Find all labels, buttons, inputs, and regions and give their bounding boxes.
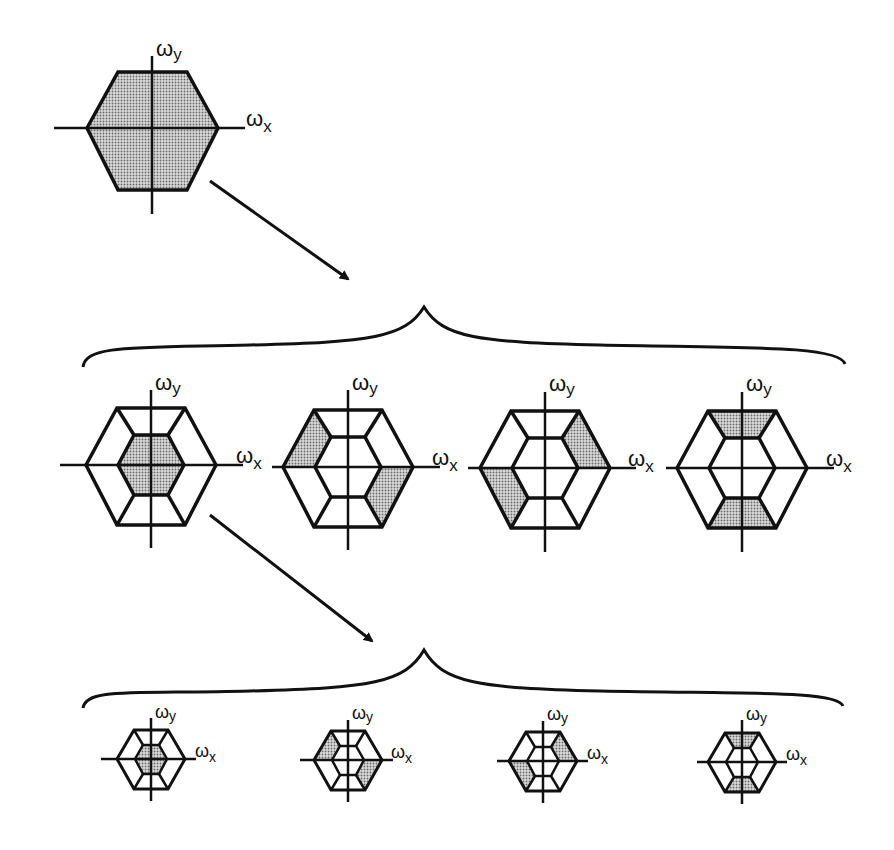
- input-spectrum-hexagon: ωy ωx: [54, 36, 272, 214]
- level-2-diagonal-band-hexagon-b: ωy ωx: [497, 704, 608, 803]
- decomposition-arrow-1: [210, 181, 348, 279]
- spoke: [526, 732, 535, 747]
- level-2-vertical-band-hexagon: ωy ωx: [697, 704, 807, 804]
- spoke: [551, 776, 560, 791]
- spoke: [117, 495, 134, 525]
- level-1-lowpass-hexagon: ωy ωx: [60, 370, 262, 548]
- spoke: [562, 498, 579, 528]
- upper-left-region-shaded: [283, 410, 331, 467]
- wx-label: ωx: [786, 744, 807, 768]
- wy-label: ωy: [746, 371, 772, 399]
- wx-label: ωx: [432, 445, 458, 475]
- level-1-diagonal-band-hexagon-b: ωy ωx: [468, 371, 654, 552]
- lower-left-region-shaded: [480, 468, 528, 528]
- wx-label: ωx: [195, 741, 216, 765]
- level-1-vertical-band-hexagon: ωy ωx: [666, 371, 852, 552]
- wy-label: ωy: [352, 703, 373, 725]
- spoke: [168, 495, 185, 525]
- upper-right-region-shaded: [562, 411, 610, 468]
- spoke: [365, 410, 382, 437]
- wy-label: ωy: [352, 370, 378, 398]
- wx-label: ωx: [826, 446, 852, 476]
- spoke: [356, 731, 365, 746]
- spoke: [159, 730, 168, 745]
- wx-label: ωx: [391, 742, 412, 766]
- spoke: [314, 497, 331, 527]
- spoke: [159, 774, 168, 789]
- spoke: [168, 408, 185, 435]
- wy-label: ωy: [155, 702, 176, 724]
- wx-label: ωx: [628, 446, 654, 476]
- level-1-brace: [83, 307, 845, 367]
- spoke: [331, 775, 340, 790]
- wy-label: ωy: [549, 371, 575, 399]
- wy-label: ωy: [155, 370, 181, 398]
- wx-label: ωx: [236, 443, 262, 473]
- wy-label: ωy: [547, 704, 568, 726]
- level-2-lowpass-hexagon: ωy ωx: [101, 702, 216, 801]
- spoke: [134, 730, 143, 745]
- hexagonal-subband-diagram: ωy ωx ωy ωx ωy ωx: [0, 0, 894, 850]
- spoke: [511, 411, 528, 438]
- wx-label: ωx: [587, 743, 608, 767]
- wx-label: ωx: [246, 106, 272, 136]
- spoke: [134, 774, 143, 789]
- wy-label: ωy: [156, 36, 182, 64]
- wy-label: ωy: [746, 704, 767, 726]
- level-1-diagonal-band-hexagon-a: ωy ωx: [272, 370, 458, 550]
- level-2-brace: [83, 650, 843, 708]
- lower-right-region-shaded: [365, 467, 413, 527]
- level-2-diagonal-band-hexagon-a: ωy ωx: [300, 703, 412, 802]
- spoke: [117, 408, 134, 435]
